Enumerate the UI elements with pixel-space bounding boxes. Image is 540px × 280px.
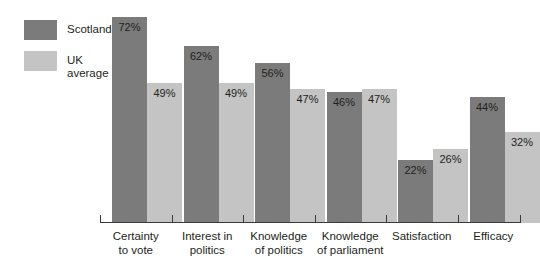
category-label-line: Interest in: [172, 230, 244, 244]
x-axis-tick: [243, 215, 244, 223]
x-axis-category-labels: Certaintyto voteInterest inpoliticsKnowl…: [100, 230, 522, 274]
bar-group: 22%26%: [398, 0, 468, 223]
bar-value-label: 47%: [368, 94, 390, 223]
bar-value-label: 56%: [261, 68, 283, 223]
category-label-line: of politics: [243, 244, 315, 258]
category-label-line: to vote: [100, 244, 172, 258]
category-label-line: Satisfaction: [386, 230, 458, 244]
bar-scotland: 46%: [327, 92, 362, 224]
category-label: Certaintyto vote: [100, 230, 172, 257]
bar-group: 62%49%: [184, 0, 254, 223]
category-label-line: Efficacy: [458, 230, 530, 244]
bar-value-label: 47%: [296, 94, 318, 223]
category-label-line: of parliament: [315, 244, 387, 258]
category-label: Efficacy: [458, 230, 530, 244]
bar-scotland: 44%: [470, 97, 505, 223]
category-label: Knowledgeof politics: [243, 230, 315, 257]
bar-group: 72%49%: [112, 0, 182, 223]
category-label-line: Knowledge: [315, 230, 387, 244]
bar-value-label: 72%: [118, 22, 140, 223]
x-axis-tick: [386, 215, 387, 223]
category-label: Interest inpolitics: [172, 230, 244, 257]
x-axis-tick: [520, 215, 521, 223]
x-axis-tick: [315, 215, 316, 223]
legend-swatch-scotland: [24, 20, 57, 40]
bar-value-label: 49%: [225, 88, 247, 223]
plot-area: 72%49%62%49%56%47%46%47%22%26%44%32%: [100, 0, 522, 223]
bar-group: 44%32%: [470, 0, 540, 223]
bar-value-label: 44%: [476, 102, 498, 223]
bar-value-label: 62%: [190, 51, 212, 223]
bar-value-label: 26%: [439, 154, 461, 223]
category-label: Satisfaction: [386, 230, 458, 244]
bar-group: 56%47%: [255, 0, 325, 223]
bar-value-label: 46%: [333, 97, 355, 224]
bar-scotland: 62%: [184, 46, 219, 223]
bar-group: 46%47%: [327, 0, 397, 223]
bar-uk-average: 49%: [219, 83, 254, 223]
x-axis-tick: [172, 215, 173, 223]
bar-uk-average: 26%: [433, 149, 468, 223]
bar-scotland: 72%: [112, 17, 147, 223]
legend-swatch-uk-average: [24, 51, 57, 71]
bar-uk-average: 47%: [290, 89, 325, 223]
bar-value-label: 32%: [511, 137, 533, 223]
bar-scotland: 22%: [398, 160, 433, 223]
category-label-line: Knowledge: [243, 230, 315, 244]
bar-uk-average: 49%: [147, 83, 182, 223]
category-label-line: Certainty: [100, 230, 172, 244]
bar-uk-average: 32%: [505, 132, 540, 223]
x-axis-tick: [458, 215, 459, 223]
x-axis-tick: [100, 215, 101, 223]
bar-scotland: 56%: [255, 63, 290, 223]
bar-uk-average: 47%: [362, 89, 397, 223]
bar-value-label: 22%: [404, 165, 426, 223]
bar-value-label: 49%: [153, 88, 175, 223]
category-label: Knowledgeof parliament: [315, 230, 387, 257]
category-label-line: politics: [172, 244, 244, 258]
